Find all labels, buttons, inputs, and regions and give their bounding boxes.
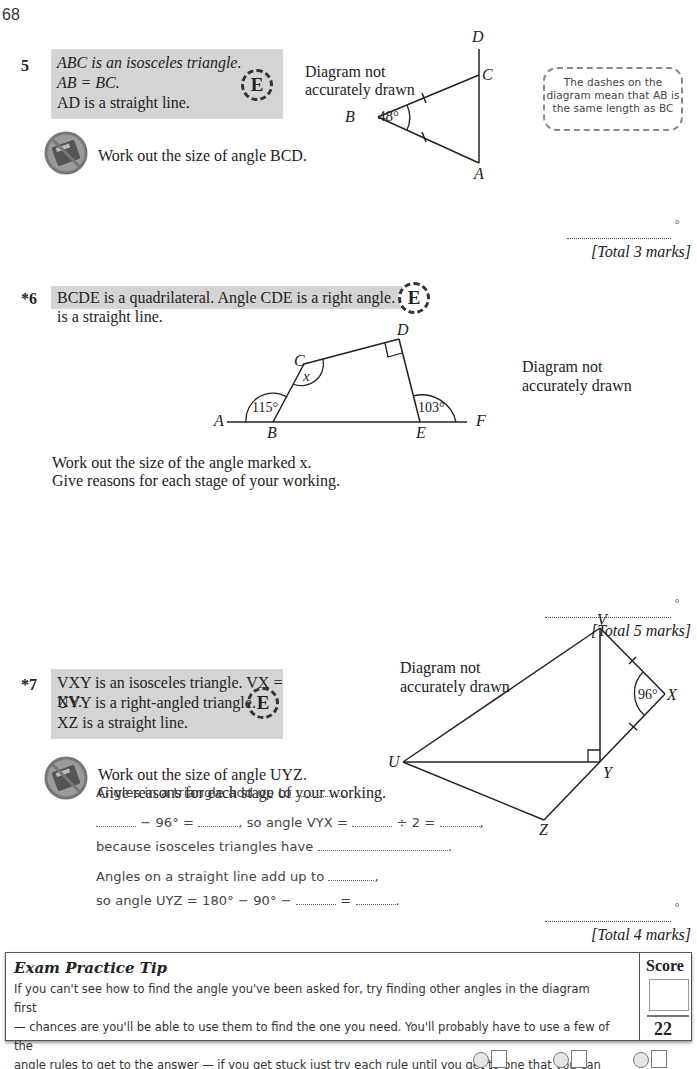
q6-label-A: A <box>214 412 224 430</box>
q7-answer-field[interactable] <box>545 907 671 922</box>
blank-straight-line[interactable] <box>328 868 374 881</box>
blank-step-4[interactable] <box>440 814 480 827</box>
q5-triangle-diagram <box>330 25 490 185</box>
working-text-isosceles-reason: because isosceles triangles have <box>96 839 313 854</box>
working-text-angle-uyz: so angle UYZ = 180° − 90° − <box>96 893 292 908</box>
line-CD <box>304 339 399 364</box>
blank-triangle-sum[interactable] <box>296 784 342 797</box>
exam-badge-icon: E <box>247 687 279 719</box>
q5-task: Work out the size of angle BCD. <box>98 146 307 165</box>
blank-isosceles-reason[interactable] <box>318 838 448 851</box>
q6-label-F: F <box>476 412 486 430</box>
score-label: Score <box>646 957 684 975</box>
blank-step-5[interactable] <box>296 892 336 905</box>
working-row-5: so angle UYZ = 180° − 90° − = . <box>96 892 400 908</box>
q7-label-V: V <box>597 611 607 629</box>
q7-label-X: X <box>667 686 677 704</box>
line-XZ <box>544 694 665 820</box>
q6-label-D: D <box>397 321 409 339</box>
hint-line-3: the same length as BC <box>545 102 681 115</box>
working-text-straight-line: Angles on a straight line add up to <box>96 869 324 884</box>
exam-badge-icon: E <box>241 69 273 101</box>
q6-angle-E: 103° <box>418 400 445 416</box>
q5-angle-B: 48° <box>378 108 399 125</box>
q6-angle-B: 115° <box>252 400 278 416</box>
working-text-triangle-sum: Angles in a triangle add up to <box>96 785 292 800</box>
line-DE <box>399 339 420 422</box>
q5-label-C: C <box>482 66 493 84</box>
q7-label-Z: Z <box>539 821 548 839</box>
question-5-number: 5 <box>21 57 29 75</box>
working-row-2: − 96° = , so angle VYX = ÷ 2 = , <box>96 814 484 830</box>
q6-angle-x: x <box>303 368 310 385</box>
angle-arc <box>407 105 410 130</box>
blank-step-1[interactable] <box>96 814 136 827</box>
working-text-angle-vyx: , so angle VYX = <box>238 815 348 830</box>
q5-total-marks: [Total 3 marks] <box>591 243 691 261</box>
score-divider <box>639 953 640 1040</box>
page-number: 68 <box>2 6 20 24</box>
q6-diagram-note-1: Diagram not <box>522 357 602 376</box>
right-angle-mark <box>588 750 600 762</box>
hint-line-2: diagram mean that AB is <box>545 89 681 102</box>
question-6-statement-box: BCDE is a quadrilateral. Angle CDE is a … <box>51 286 423 309</box>
q7-total-marks: [Total 4 marks] <box>591 926 691 944</box>
question-5-statement-box: ABC is an isosceles triangle. AB = BC. A… <box>51 49 283 119</box>
q7-degree-symbol: ° <box>675 901 679 913</box>
score-total: 22 <box>654 1019 672 1040</box>
blank-step-6[interactable] <box>356 892 396 905</box>
score-input-box[interactable] <box>649 979 689 1011</box>
q7-statement-2: UVY is a right-angled triangle. <box>57 693 256 712</box>
hint-line-1: The dashes on the <box>545 76 681 89</box>
smiley-neutral-icon <box>553 1052 569 1068</box>
q6-quadrilateral-diagram <box>180 310 510 430</box>
score-fraction-line <box>647 1015 689 1017</box>
working-text-minus-96: − 96° = <box>140 815 194 830</box>
q6-task-2: Give reasons for each stage of your work… <box>52 471 340 490</box>
question-6-number: *6 <box>21 290 37 308</box>
q7-angle-X: 96° <box>638 687 658 703</box>
q7-label-Y: Y <box>603 764 612 782</box>
q6-label-E: E <box>416 424 426 442</box>
checkbox-unsure[interactable] <box>651 1050 667 1068</box>
q5-label-B: B <box>345 108 355 126</box>
smiley-unsure-icon <box>633 1052 649 1068</box>
q6-degree-symbol: ° <box>675 597 679 609</box>
tip-line-2: — chances are you'll be able to use them… <box>14 1018 614 1056</box>
smiley-confident-icon <box>473 1052 489 1068</box>
tip-body: If you can't see how to find the angle y… <box>14 980 614 1069</box>
question-7-number: *7 <box>21 676 37 694</box>
working-row-3: because isosceles triangles have . <box>96 838 452 854</box>
line-UZ <box>403 762 544 820</box>
q5-statement-2: AB = BC. <box>57 73 120 92</box>
hint-bubble: The dashes on the diagram mean that AB i… <box>543 67 683 131</box>
exam-practice-tip-box: Exam Practice Tip If you can't see how t… <box>5 952 692 1041</box>
blank-step-2[interactable] <box>198 814 238 827</box>
q6-task-1: Work out the size of the angle marked x. <box>52 453 312 472</box>
q7-task-1: Work out the size of angle UYZ. <box>98 765 307 784</box>
q5-statement-1: ABC is an isosceles triangle. <box>57 53 241 72</box>
q6-answer-field[interactable] <box>545 603 671 618</box>
line-UV <box>403 628 600 762</box>
q7-statement-3: XZ is a straight line. <box>57 713 188 732</box>
working-row-1: Angles in a triangle add up to . <box>96 784 346 800</box>
working-row-4: Angles on a straight line add up to , <box>96 868 379 884</box>
tip-line-1: If you can't see how to find the angle y… <box>14 980 614 1018</box>
q7-label-U: U <box>388 753 400 771</box>
no-calculator-icon <box>44 756 88 800</box>
q5-answer-field[interactable] <box>567 224 671 239</box>
right-angle-mark <box>385 343 402 357</box>
question-7-statement-box: VXY is an isosceles triangle. VX = XY. U… <box>51 669 283 739</box>
blank-step-3[interactable] <box>352 814 392 827</box>
checkbox-confident[interactable] <box>491 1050 507 1068</box>
working-text-equals: = <box>340 893 351 908</box>
tip-line-3: angle rules to get to the answer — if yo… <box>14 1056 614 1069</box>
q6-diagram-note-2: accurately drawn <box>522 376 632 395</box>
q5-label-A: A <box>474 165 484 183</box>
working-text-divide-2: ÷ 2 = <box>396 815 435 830</box>
q5-label-D: D <box>472 28 484 46</box>
q6-label-B: B <box>267 424 277 442</box>
q5-degree-symbol: ° <box>675 218 679 230</box>
checkbox-neutral[interactable] <box>571 1050 587 1068</box>
q7-diagram <box>360 620 697 840</box>
